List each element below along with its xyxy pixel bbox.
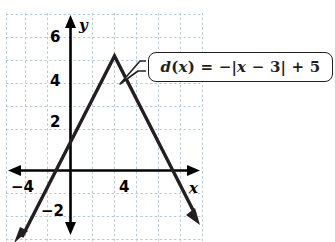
- function-equation-text: d(x) = −|x − 3| + 5: [161, 58, 321, 76]
- callout-constant-3: 3: [270, 58, 281, 76]
- x-axis-label: x: [189, 181, 198, 196]
- grid-horizontal-lines: [6, 15, 202, 240]
- function-equation-callout: d(x) = −|x − 3| + 5: [148, 52, 333, 82]
- callout-plus: +: [286, 58, 310, 76]
- y-tick-label-4: 4: [50, 74, 60, 89]
- y-tick-label-6: 6: [50, 30, 60, 45]
- callout-minus: −: [246, 58, 270, 76]
- absolute-value-graph-figure: 6 4 2 −2 −4 4 y x d(x) = −|x − 3| + 5: [0, 0, 335, 242]
- y-tick-label-minus-2: −2: [41, 204, 64, 219]
- callout-constant-5: 5: [310, 58, 321, 76]
- callout-var-x-1: x: [179, 58, 188, 76]
- y-axis-label: y: [79, 18, 88, 33]
- callout-paren-open: (: [171, 58, 178, 76]
- x-tick-label-4: 4: [119, 180, 129, 195]
- x-tick-label-minus-4: −4: [11, 180, 34, 195]
- callout-equals: =: [195, 58, 219, 76]
- callout-negative-sign: −: [219, 58, 232, 76]
- callout-var-x-2: x: [237, 58, 246, 76]
- callout-paren-close: ): [188, 58, 195, 76]
- callout-func-d: d: [161, 58, 172, 76]
- y-tick-label-2: 2: [50, 115, 60, 130]
- y-axis: [65, 15, 76, 235]
